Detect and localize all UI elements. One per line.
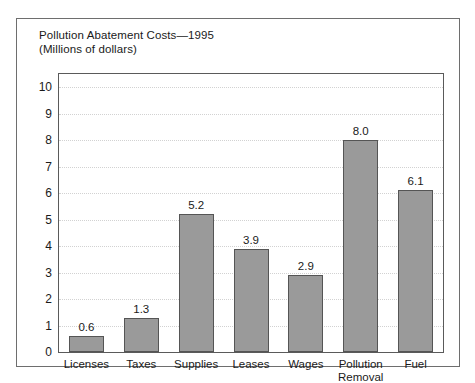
y-tick-label: 10	[39, 80, 52, 94]
bar[interactable]	[343, 140, 378, 352]
y-tick-label: 7	[45, 160, 52, 174]
figure-outer-frame: Pollution Abatement Costs—1995 (Millions…	[16, 18, 460, 367]
bar-value-label: 2.9	[276, 260, 335, 272]
bar-value-label: 5.2	[167, 199, 226, 211]
plot-area: 012345678910 0.61.35.23.92.98.06.1	[59, 74, 443, 352]
bar-value-label: 3.9	[222, 234, 281, 246]
x-tick-label-line: Fuel	[382, 358, 449, 371]
bar-slot: 0.6	[69, 74, 104, 352]
y-tick-label: 1	[45, 319, 52, 333]
y-tick-label: 6	[45, 186, 52, 200]
bar-value-label: 1.3	[112, 303, 171, 315]
chart-title-line-1: Pollution Abatement Costs—1995	[39, 28, 214, 42]
y-tick-label: 2	[45, 292, 52, 306]
bar-value-label: 6.1	[386, 175, 445, 187]
bar-slot: 8.0	[343, 74, 378, 352]
bar-slot: 5.2	[179, 74, 214, 352]
x-tick-label-line: Removal	[327, 371, 394, 383]
y-tick-label: 9	[45, 107, 52, 121]
bar-slot: 1.3	[124, 74, 159, 352]
y-tick-label: 0	[45, 345, 52, 359]
y-tick-label: 3	[45, 266, 52, 280]
x-tick-label: Fuel	[382, 358, 449, 371]
bar[interactable]	[288, 275, 323, 352]
bar[interactable]	[398, 190, 433, 352]
chart-title-block: Pollution Abatement Costs—1995 (Millions…	[39, 28, 214, 56]
bar[interactable]	[179, 214, 214, 352]
bar-value-label: 8.0	[331, 125, 390, 137]
y-tick-label: 8	[45, 133, 52, 147]
bar-slot: 2.9	[288, 74, 323, 352]
y-tick-label: 4	[45, 239, 52, 253]
y-tick-label: 5	[45, 213, 52, 227]
bar-slot: 6.1	[398, 74, 433, 352]
chart-title-line-2: (Millions of dollars)	[39, 42, 214, 56]
bar-value-label: 0.6	[57, 321, 116, 333]
bar[interactable]	[69, 336, 104, 352]
bar[interactable]	[234, 249, 269, 352]
plot-frame: 012345678910 0.61.35.23.92.98.06.1	[58, 73, 444, 353]
bar[interactable]	[124, 318, 159, 352]
bar-slot: 3.9	[234, 74, 269, 352]
